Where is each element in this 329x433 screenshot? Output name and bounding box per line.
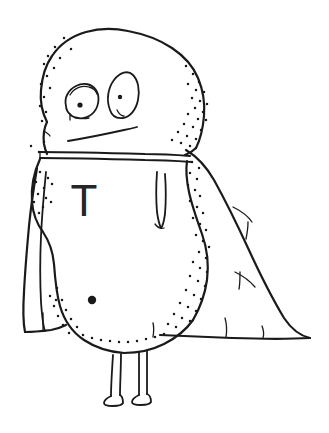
stipple-dot bbox=[206, 271, 209, 274]
stipple-dot bbox=[37, 193, 40, 196]
stipple-dot bbox=[202, 111, 205, 114]
stipple-dot bbox=[192, 261, 195, 264]
right-eye-pupil bbox=[118, 95, 122, 99]
stipple-dot bbox=[198, 81, 201, 84]
stipple-dot bbox=[175, 326, 178, 329]
stipple-dot bbox=[179, 302, 182, 305]
stipple-dot bbox=[183, 123, 186, 126]
stipple-dot bbox=[191, 97, 194, 100]
stipple-dot bbox=[192, 73, 195, 76]
chest-letter-T: T bbox=[71, 176, 98, 225]
stipple-dot bbox=[204, 285, 207, 288]
stipple-dot bbox=[191, 161, 194, 164]
stipple-dot bbox=[195, 89, 198, 92]
stipple-dot bbox=[192, 217, 195, 220]
stipple-dot bbox=[118, 341, 121, 344]
left-eye-pupil bbox=[77, 102, 82, 107]
stipple-dot bbox=[194, 189, 197, 192]
stipple-dot bbox=[43, 96, 46, 99]
stipple-dot bbox=[145, 338, 148, 341]
stipple-dot bbox=[41, 120, 44, 123]
stipple-dot bbox=[136, 340, 139, 343]
stipple-dot bbox=[195, 234, 198, 237]
stipple-dot bbox=[43, 187, 46, 190]
stipple-dot bbox=[173, 313, 176, 316]
stipple-dot bbox=[187, 83, 190, 86]
stipple-dot bbox=[186, 135, 189, 138]
stipple-dot bbox=[50, 201, 53, 204]
stipple-dot bbox=[55, 299, 58, 302]
stipple-dot bbox=[46, 75, 49, 78]
stipple-dot bbox=[205, 119, 208, 122]
stipple-dot bbox=[203, 91, 206, 94]
stipple-dot bbox=[65, 309, 68, 312]
stipple-dot bbox=[197, 118, 200, 121]
stipple-dot bbox=[61, 299, 64, 302]
navel-dot bbox=[88, 296, 96, 304]
stipple-dot bbox=[49, 87, 52, 90]
stipple-dot bbox=[47, 55, 50, 58]
stipple-dot bbox=[70, 318, 73, 321]
stipple-dot bbox=[54, 46, 57, 49]
stipple-dot bbox=[180, 142, 183, 145]
stipple-dot bbox=[200, 298, 203, 301]
stipple-dot bbox=[189, 172, 192, 175]
stipple-dot bbox=[192, 126, 195, 129]
stipple-dot bbox=[199, 100, 202, 103]
stipple-dot bbox=[193, 294, 196, 297]
stipple-dot bbox=[42, 206, 45, 209]
stipple-dot bbox=[100, 339, 103, 342]
stipple-dot bbox=[109, 340, 112, 343]
stipple-dot bbox=[49, 295, 52, 298]
stipple-dot bbox=[196, 206, 199, 209]
stipple-dot bbox=[189, 200, 192, 203]
stipple-dot bbox=[40, 83, 43, 86]
stipple-dot bbox=[200, 129, 203, 132]
stipple-dot bbox=[35, 181, 38, 184]
stipple-dot bbox=[185, 65, 188, 68]
stipple-dot bbox=[53, 305, 56, 308]
stipple-dot bbox=[91, 337, 94, 340]
stipple-dot bbox=[62, 324, 65, 327]
stipple-dot bbox=[181, 317, 184, 320]
stipple-dot bbox=[30, 145, 33, 148]
stipple-dot bbox=[194, 107, 197, 110]
character-illustration: T bbox=[0, 0, 329, 433]
stipple-dot bbox=[127, 341, 130, 344]
stipple-dot bbox=[196, 178, 199, 181]
stipple-dot bbox=[70, 48, 73, 51]
stipple-dot bbox=[199, 195, 202, 198]
stipple-dot bbox=[206, 103, 209, 106]
stipple-dot bbox=[59, 57, 62, 60]
stipple-dot bbox=[185, 289, 188, 292]
stipple-dot bbox=[198, 167, 201, 170]
stipple-dot bbox=[163, 333, 166, 336]
stipple-dot bbox=[57, 315, 60, 318]
stipple-dot bbox=[43, 63, 46, 66]
stipple-dot bbox=[202, 212, 205, 215]
stipple-dot bbox=[68, 332, 71, 335]
stipple-dot bbox=[38, 151, 41, 154]
stipple-dot bbox=[39, 105, 42, 108]
stipple-dot bbox=[195, 138, 198, 141]
stipple-dot bbox=[187, 184, 190, 187]
stipple-dot bbox=[198, 251, 201, 254]
stipple-dot bbox=[45, 111, 48, 114]
stipple-dot bbox=[47, 177, 50, 180]
stipple-dot bbox=[205, 229, 208, 232]
stipple-dot bbox=[189, 320, 192, 323]
stipple-dot bbox=[208, 246, 211, 249]
stipple-dot bbox=[171, 139, 174, 142]
stipple-dot bbox=[38, 212, 41, 215]
stipple-dot bbox=[189, 145, 192, 148]
stipple-dot bbox=[154, 336, 157, 339]
stipple-dot bbox=[82, 334, 85, 337]
cape-fold-hem-left bbox=[153, 323, 154, 337]
stipple-dot bbox=[43, 141, 46, 144]
stipple-dot bbox=[205, 257, 208, 260]
stipple-dot bbox=[177, 131, 180, 134]
stipple-dot bbox=[53, 67, 56, 70]
stipple-dot bbox=[76, 326, 79, 329]
stipple-dot bbox=[63, 37, 66, 40]
stipple-dot bbox=[187, 306, 190, 309]
